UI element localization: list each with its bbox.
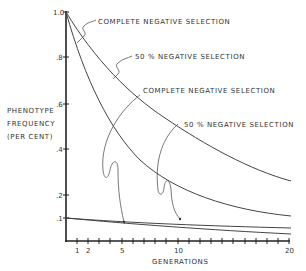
annotation-50pct-top: 50 % NEGATIVE SELECTION bbox=[135, 53, 245, 61]
y-tick-labels: 1.0 .8 .6 .4 .2 .1 bbox=[53, 9, 64, 223]
x-tick-10: 10 bbox=[174, 247, 183, 255]
y-tick-0.1: .1 bbox=[56, 215, 63, 223]
x-tick-5: 5 bbox=[120, 247, 124, 255]
y-tick-0.6: .6 bbox=[56, 101, 63, 109]
x-tick-1: 1 bbox=[75, 247, 79, 255]
x-tick-2: 2 bbox=[86, 247, 90, 255]
curve-complete-from-1 bbox=[66, 12, 291, 216]
annotation-complete-top: COMPLETE NEGATIVE SELECTION bbox=[98, 18, 230, 26]
annotation-50pct-bottom: 50 % NEGATIVE SELECTION bbox=[184, 121, 294, 129]
x-tick-20: 20 bbox=[285, 247, 294, 255]
y-tick-1.0: 1.0 bbox=[53, 9, 64, 17]
y-axis-title-line1: PHENOTYPE bbox=[7, 107, 54, 115]
phenotype-frequency-chart: 1.0 .8 .6 .4 .2 .1 1 2 5 10 20 GENE bbox=[0, 0, 306, 271]
y-axis-title-line2: FREQUENCY bbox=[7, 120, 55, 128]
y-tick-0.4: .4 bbox=[56, 146, 63, 154]
annotation-complete-bottom: COMPLETE NEGATIVE SELECTION bbox=[143, 87, 275, 95]
x-axis-title: GENERATIONS bbox=[152, 258, 208, 266]
y-tick-0.8: .8 bbox=[56, 54, 63, 62]
curve-50pct-from-1 bbox=[66, 12, 291, 181]
y-axis-title-line3: (PER CENT) bbox=[7, 133, 53, 141]
x-tick-labels: 1 2 5 10 20 bbox=[75, 247, 294, 255]
y-tick-0.2: .2 bbox=[56, 192, 63, 200]
curve-complete-from-0.1 bbox=[66, 218, 291, 228]
